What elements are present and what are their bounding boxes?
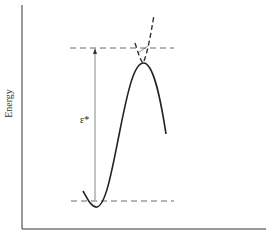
- y-axis-label: Energy: [3, 89, 14, 118]
- energy-diagram: [0, 0, 271, 236]
- arrowhead-icon: [93, 48, 97, 54]
- potential-curve: [83, 63, 166, 207]
- dashed-parabola: [135, 15, 154, 63]
- barrier-label: ε*: [80, 114, 89, 125]
